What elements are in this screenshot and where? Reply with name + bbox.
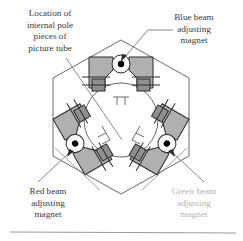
label-blue-line-1: Blue beam bbox=[152, 12, 236, 24]
label-green-line-1: Green beam bbox=[152, 186, 236, 198]
label-red-line-1: Red beam bbox=[6, 186, 90, 198]
label-red-line-3: magnet bbox=[6, 209, 90, 221]
label-pole-pieces-line-4: picture tube bbox=[8, 43, 92, 55]
label-pole-pieces-line-3: pieces of bbox=[8, 31, 92, 43]
footer-rule bbox=[10, 232, 236, 233]
picture-tube-circle bbox=[84, 83, 158, 157]
label-pole-pieces-line-2: internal pole bbox=[8, 20, 92, 32]
label-green-line-3: magnet bbox=[152, 209, 236, 221]
label-pole-pieces-line-1: Location of bbox=[8, 8, 92, 20]
label-blue-line-3: magnet bbox=[152, 35, 236, 47]
label-red-beam-magnet: Red beam adjusting magnet bbox=[6, 186, 90, 221]
label-green-beam-magnet: Green beam adjusting magnet bbox=[152, 186, 236, 221]
label-pole-pieces: Location of internal pole pieces of pict… bbox=[8, 8, 92, 54]
label-red-line-2: adjusting bbox=[6, 198, 90, 210]
label-blue-beam-magnet: Blue beam adjusting magnet bbox=[152, 12, 236, 47]
label-blue-line-2: adjusting bbox=[152, 24, 236, 36]
blue-pivot-dot bbox=[118, 61, 124, 67]
label-green-line-2: adjusting bbox=[152, 198, 236, 210]
